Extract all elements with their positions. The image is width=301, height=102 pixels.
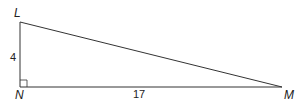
vertex-label-N: N — [15, 88, 24, 102]
triangle-diagram: L N M 4 17 — [0, 0, 301, 102]
triangle-LNM — [20, 22, 282, 87]
side-label-LN: 4 — [10, 51, 16, 63]
vertex-label-L: L — [14, 6, 21, 20]
right-angle-marker — [20, 80, 27, 87]
vertex-label-M: M — [284, 88, 294, 102]
side-label-NM: 17 — [133, 88, 145, 100]
